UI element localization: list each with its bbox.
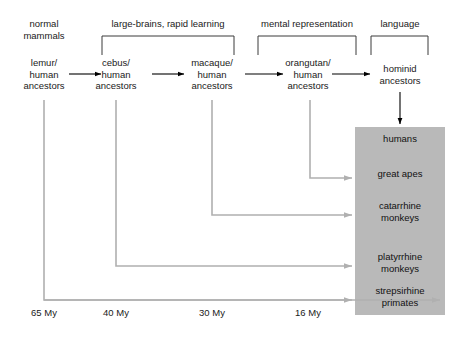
- timeline-label-16my: 16 My: [284, 307, 332, 318]
- node-orangutan-line2: human: [270, 69, 346, 81]
- category-large-brains-line1: large-brains, rapid learning: [102, 18, 234, 30]
- node-cebus-line1: cebus/: [78, 57, 154, 69]
- category-language-line1: language: [371, 18, 429, 30]
- taxon-platyrrhine-line2: monkeys: [355, 263, 445, 275]
- node-lemur-line3: ancestors: [6, 80, 82, 92]
- node-macaque-line2: human: [174, 69, 250, 81]
- category-label-mental-representation: mental representation: [256, 18, 358, 30]
- bracket-large-brains: [102, 36, 234, 55]
- node-cebus-line2: human: [78, 69, 154, 81]
- category-label-large-brains: large-brains, rapid learning: [102, 18, 234, 30]
- taxon-catarrhine-line2: monkeys: [355, 212, 445, 224]
- timeline-label-30my: 30 My: [188, 307, 236, 318]
- node-macaque-line1: macaque/: [174, 57, 250, 69]
- branch-to-platyrrhine-monkeys: [116, 100, 352, 266]
- node-hominid-ancestors: hominid ancestors: [362, 63, 438, 86]
- taxon-catarrhine-line1: catarrhine: [355, 200, 445, 212]
- category-label-normal-mammals: normal mammals: [6, 18, 82, 41]
- taxon-strepsirhine-line1: strepsirhine: [355, 285, 445, 297]
- node-lemur-human-ancestors: lemur/ human ancestors: [6, 57, 82, 92]
- node-hominid-line2: ancestors: [362, 75, 438, 87]
- category-mental-representation-line1: mental representation: [256, 18, 358, 30]
- taxon-platyrrhine-line1: platyrrhine: [355, 251, 445, 263]
- node-cebus-line3: ancestors: [78, 80, 154, 92]
- branch-to-strepsirhine-primates: [44, 100, 352, 300]
- category-normal-mammals-line1: normal: [6, 18, 82, 30]
- node-orangutan-line1: orangutan/: [270, 57, 346, 69]
- taxon-catarrhine-monkeys: catarrhine monkeys: [355, 200, 445, 223]
- node-orangutan-line3: ancestors: [270, 80, 346, 92]
- node-lemur-line1: lemur/: [6, 57, 82, 69]
- node-macaque-line3: ancestors: [174, 80, 250, 92]
- bracket-mental-representation: [258, 36, 356, 55]
- bracket-language: [371, 36, 428, 55]
- primate-evolution-diagram: normal mammals large-brains, rapid learn…: [0, 0, 451, 339]
- branch-to-catarrhine-monkeys: [212, 100, 352, 215]
- category-label-language: language: [371, 18, 429, 30]
- taxon-humans: humans: [355, 133, 445, 145]
- taxon-great-apes: great apes: [355, 168, 445, 180]
- taxon-strepsirhine-primates: strepsirhine primates: [355, 285, 445, 308]
- branch-to-great-apes: [310, 100, 352, 178]
- taxon-humans-line1: humans: [355, 133, 445, 145]
- timeline-label-65my: 65 My: [20, 307, 68, 318]
- taxon-strepsirhine-line2: primates: [355, 297, 445, 309]
- category-normal-mammals-line2: mammals: [6, 30, 82, 42]
- taxon-platyrrhine-monkeys: platyrrhine monkeys: [355, 251, 445, 274]
- node-cebus-human-ancestors: cebus/ human ancestors: [78, 57, 154, 92]
- node-hominid-line1: hominid: [362, 63, 438, 75]
- timeline-label-40my: 40 My: [92, 307, 140, 318]
- taxon-great-apes-line1: great apes: [355, 168, 445, 180]
- node-orangutan-human-ancestors: orangutan/ human ancestors: [270, 57, 346, 92]
- node-lemur-line2: human: [6, 69, 82, 81]
- node-macaque-human-ancestors: macaque/ human ancestors: [174, 57, 250, 92]
